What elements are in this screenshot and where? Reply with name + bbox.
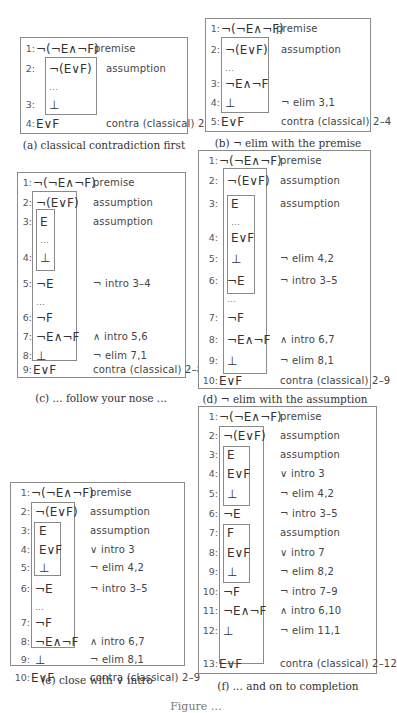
justification: ¬ intro 7–9 [280, 583, 338, 601]
proof-line: 3:Eassumption [199, 195, 372, 213]
proof-line: 12:⊥¬ elim 11,1 [199, 622, 378, 640]
justification: assumption [93, 213, 153, 231]
line-number: 5: [201, 250, 218, 268]
proof-line: 4:⊥ [18, 249, 187, 267]
proof-line: 7:¬F [11, 614, 186, 632]
line-number: 5: [208, 113, 220, 131]
formula: ¬E∧¬F [223, 602, 266, 620]
formula: ¬(¬E∧¬F) [219, 152, 282, 170]
line-number: 2: [20, 194, 32, 212]
proof-line: 1:¬(¬E∧¬F)premise [11, 484, 186, 502]
justification: ¬ elim 8,1 [90, 651, 144, 669]
justification: ∧ intro 6,7 [280, 331, 335, 349]
panel-caption-e: (e) close with ∨ intro [0, 674, 197, 686]
proof-line: 5:E∨Fcontra (classical) 2–4 [206, 113, 372, 131]
formula: ¬E [227, 272, 245, 290]
justification: ¬ elim 8,2 [280, 563, 334, 581]
proof-line: 2:¬(E∨F)assumption [199, 427, 378, 445]
line-number: 2: [13, 503, 30, 521]
justification: contra (classical) 2–9 [280, 372, 390, 390]
line-number: 1: [208, 20, 220, 38]
justification: ¬ intro 3–5 [90, 580, 148, 598]
formula: ¬E [35, 580, 53, 598]
proof-line: 3:Eassumption [199, 446, 378, 464]
line-number: 7: [13, 614, 30, 632]
justification: premise [280, 408, 322, 426]
justification: assumption [280, 195, 340, 213]
formula: ⊥ [39, 559, 49, 577]
line-number: 1: [201, 408, 218, 426]
formula: ⊥ [227, 563, 237, 581]
justification: contra (classical) 2–4 [281, 113, 391, 131]
panel-caption-b: (b) ¬ elim with the premise [188, 137, 388, 149]
justification: ¬ intro 3–5 [280, 505, 338, 523]
formula: E∨F [219, 655, 242, 673]
formula: E [40, 213, 48, 231]
formula: ¬(E∨F) [223, 427, 266, 445]
line-number: 10: [201, 372, 218, 390]
line-number: 2: [201, 427, 218, 445]
line-number: 8: [201, 331, 218, 349]
panel-caption-a: (a) classical contradiction first [4, 139, 204, 151]
proof-line: 4:⊥¬ elim 3,1 [206, 94, 372, 112]
proof-line: 5:⊥¬ elim 4,2 [199, 250, 372, 268]
line-number: 3: [20, 213, 32, 231]
formula: E∨F [219, 372, 242, 390]
proof-panel-a: 1:¬(¬E∧¬F)premise2:¬(E∨F)assumption…3:⊥4… [20, 37, 188, 134]
formula: ⊥ [35, 651, 45, 669]
justification: assumption [106, 60, 166, 78]
formula: E [227, 446, 235, 464]
justification: ¬ elim 3,1 [281, 94, 335, 112]
proof-line: 11:¬E∧¬F∧ intro 6,10 [199, 602, 378, 620]
justification: premise [280, 152, 322, 170]
proof-line: 5:⊥¬ elim 4,2 [199, 485, 378, 503]
proof-line: … [18, 231, 187, 249]
line-number: 4: [23, 115, 35, 133]
ellipsis-gap: … [227, 290, 237, 308]
proof-panel-e: 1:¬(¬E∧¬F)premise2:¬(E∨F)assumption3:Eas… [10, 482, 185, 666]
line-number: 3: [201, 195, 218, 213]
proof-line: 1:¬(¬E∧¬F)premise [21, 40, 189, 58]
line-number: 6: [201, 272, 218, 290]
proof-line: 2:¬(E∨F)assumption [18, 194, 187, 212]
proof-panel-c: 1:¬(¬E∧¬F)premise2:¬(E∨F)assumption3:Eas… [17, 172, 186, 378]
line-number: 4: [201, 465, 218, 483]
line-number: 8: [201, 544, 218, 562]
formula: ¬E [223, 505, 241, 523]
line-number: 9: [20, 361, 32, 379]
panel-caption-f: (f) ... and on to completion [188, 680, 388, 692]
proof-line: 13:E∨Fcontra (classical) 2–12 [199, 655, 378, 673]
justification: ¬ elim 4,2 [280, 485, 334, 503]
panel-caption-c: (c) ... follow your nose ... [1, 392, 201, 404]
justification: ∧ intro 5,6 [93, 328, 148, 346]
formula: ¬F [35, 614, 52, 632]
justification: premise [276, 20, 318, 38]
justification: ¬ intro 3–4 [93, 275, 151, 293]
line-number: 9: [201, 563, 218, 581]
proof-line: 5:¬E¬ intro 3–4 [18, 275, 187, 293]
justification: ∧ intro 6,7 [90, 633, 145, 651]
line-number: 4: [13, 541, 30, 559]
formula: ¬(E∨F) [36, 194, 79, 212]
formula: ¬(¬E∧¬F) [221, 20, 284, 38]
formula: ⊥ [231, 250, 241, 268]
line-number: 1: [23, 40, 35, 58]
proof-line: 1:¬(¬E∧¬F)premise [206, 20, 372, 38]
justification: contra (classical) 2–8 [93, 361, 203, 379]
line-number: 5: [13, 559, 30, 577]
formula: E [39, 522, 47, 540]
formula: ¬E∧¬F [227, 331, 270, 349]
proof-line: 4:E∨Fcontra (classical) 2–3 [21, 115, 189, 133]
justification: assumption [281, 41, 341, 59]
proof-line: 4:E∨F∨ intro 3 [199, 465, 378, 483]
justification: ¬ elim 4,2 [90, 559, 144, 577]
justification: premise [94, 40, 136, 58]
figure-caption: Figure … [0, 700, 392, 713]
line-number: 4: [201, 229, 218, 247]
formula: ¬(E∨F) [225, 41, 268, 59]
proof-line: 5:⊥¬ elim 4,2 [11, 559, 186, 577]
proof-line: 9:⊥¬ elim 8,2 [199, 563, 378, 581]
justification: assumption [280, 446, 340, 464]
proof-line: 8:¬E∧¬F∧ intro 6,7 [199, 331, 372, 349]
proof-line: 7:¬E∧¬F∧ intro 5,6 [18, 328, 187, 346]
